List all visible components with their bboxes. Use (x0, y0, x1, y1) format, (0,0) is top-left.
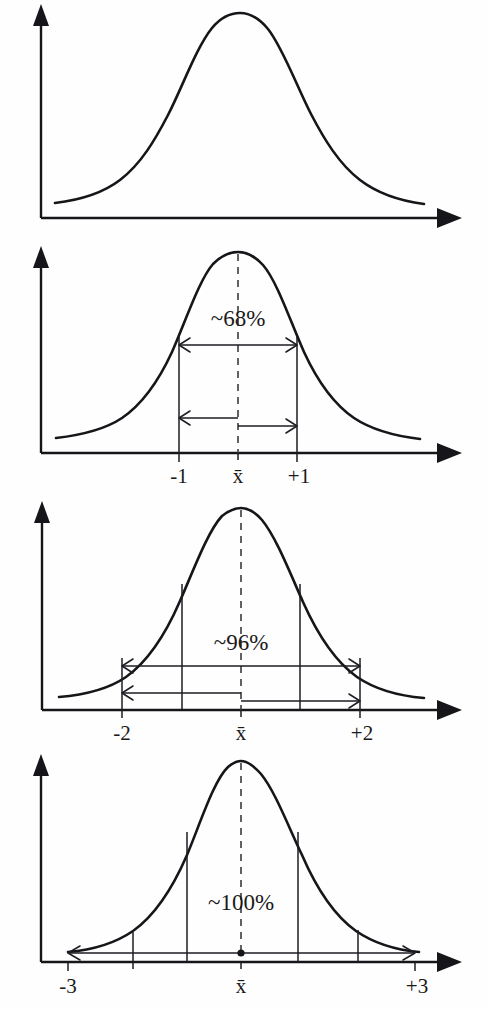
panel-two-sigma-curve: ~96% -2 x̄ +2 (0, 490, 488, 750)
axis-label-plus-2: +2 (351, 721, 373, 745)
axis-label-mean: x̄ (236, 721, 247, 745)
axis-label-minus-2: -2 (113, 721, 131, 745)
panel-one-sigma-curve: ~68% -1 x̄ +1 (0, 240, 488, 490)
panel-3-canvas: ~96% -2 x̄ +2 (0, 490, 488, 750)
normal-curve-path (68, 761, 419, 952)
panel-4-canvas: ~100% -3 x̄ +3 (0, 750, 488, 1009)
percent-label: ~100% (208, 890, 274, 915)
panel-1-canvas (0, 0, 488, 240)
panel-three-sigma-curve: ~100% -3 x̄ +3 (0, 750, 488, 1009)
x-axis-arrow-icon (437, 208, 462, 228)
axis-label-mean: x̄ (233, 464, 244, 488)
x-axis-arrow-icon (437, 443, 462, 463)
y-axis-arrow-icon (33, 246, 49, 268)
x-axis-arrow-icon (437, 700, 462, 720)
mean-center-dot (237, 949, 244, 956)
axis-label-mean: x̄ (236, 974, 247, 998)
y-axis-arrow-icon (34, 501, 50, 523)
y-axis-arrow-icon (33, 4, 49, 26)
axis-label-minus-3: -3 (59, 974, 77, 998)
axis-label-plus-1: +1 (288, 464, 310, 488)
percent-label: ~96% (214, 630, 269, 655)
normal-distribution-figure: ~68% -1 x̄ +1 (0, 0, 488, 1009)
normal-curve-path (55, 13, 424, 204)
axis-label-minus-1: -1 (170, 464, 188, 488)
axis-label-plus-3: +3 (406, 974, 428, 998)
panel-2-canvas: ~68% -1 x̄ +1 (0, 240, 488, 490)
percent-label: ~68% (211, 306, 266, 331)
y-axis-arrow-icon (33, 754, 49, 776)
x-axis-arrow-icon (437, 952, 462, 972)
panel-plain-normal-curve (0, 0, 488, 240)
